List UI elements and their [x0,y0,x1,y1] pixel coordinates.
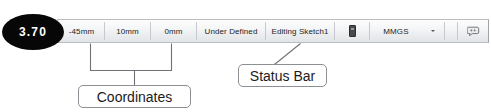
sketch-state-label: Under Defined [205,27,258,36]
status-bar-toggle-button[interactable] [335,20,369,42]
status-bar-y-coordinate[interactable]: 10mm [105,20,150,42]
annotation-tag-icon [467,26,480,37]
callout-coordinates: Coordinates [78,85,191,108]
step-number-badge: 3.70 [2,14,64,50]
status-bar-spacer [445,20,457,42]
callout-status-bar-label: Status Bar [250,68,315,84]
status-bar-units-dropdown[interactable] [422,20,444,42]
step-number-label: 3.70 [19,25,47,39]
status-bar-editing-context[interactable]: Editing Sketch1 [266,20,334,42]
status-bar-units[interactable]: MMGS [370,20,422,42]
rectangle-toggle-icon [349,25,356,37]
callout-coordinates-label: Coordinates [97,89,173,105]
x-coordinate-value: -45mm [69,27,94,36]
status-bar-x-coordinate[interactable]: -45mm [59,20,104,42]
callout-status-bar: Status Bar [238,64,327,87]
status-bar-annotation-button[interactable] [458,20,488,42]
status-bar-leader-line [275,44,301,65]
status-bar[interactable]: -45mm 10mm 0mm Under Defined Editing Ske… [57,19,489,43]
chevron-down-icon [431,30,435,32]
z-coordinate-value: 0mm [164,27,182,36]
status-bar-z-coordinate[interactable]: 0mm [151,20,196,42]
units-label: MMGS [383,27,408,36]
editing-context-label: Editing Sketch1 [271,27,328,36]
coordinates-bracket [91,44,172,86]
y-coordinate-value: 10mm [116,27,139,36]
annotation-connector-layer [0,0,491,112]
status-bar-sketch-state[interactable]: Under Defined [197,20,265,42]
